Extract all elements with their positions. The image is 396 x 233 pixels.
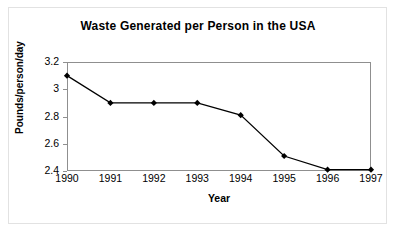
chart-title: Waste Generated per Person in the USA — [0, 19, 396, 33]
y-tick-label: 3 — [29, 82, 59, 94]
x-tick-label: 1993 — [174, 172, 220, 184]
y-tick-label: 3.2 — [29, 55, 59, 67]
y-tick-label: 2.8 — [29, 110, 59, 122]
x-tick-label: 1997 — [348, 172, 394, 184]
series-markers — [64, 73, 374, 173]
y-axis-title: Pounds/person/day — [14, 33, 25, 143]
x-tick-label: 1992 — [131, 172, 177, 184]
data-point-marker — [151, 100, 157, 106]
y-tick-label: 2.6 — [29, 137, 59, 149]
data-point-marker — [194, 100, 200, 106]
x-tick-label: 1996 — [305, 172, 351, 184]
x-tick-label: 1995 — [261, 172, 307, 184]
x-axis-title: Year — [67, 192, 371, 204]
chart-figure: Waste Generated per Person in the USA Po… — [0, 0, 396, 233]
series-line — [67, 76, 371, 170]
data-point-marker — [107, 100, 113, 106]
x-tick-label: 1994 — [218, 172, 264, 184]
data-series-layer — [67, 62, 371, 171]
x-tick-label: 1990 — [44, 172, 90, 184]
x-tick-label: 1991 — [87, 172, 133, 184]
